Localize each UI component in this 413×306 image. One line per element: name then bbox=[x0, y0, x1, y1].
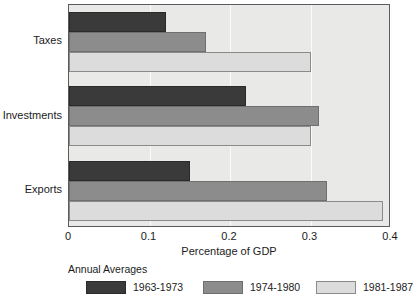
legend-swatch bbox=[203, 281, 243, 294]
legend-label: 1963-1973 bbox=[133, 281, 183, 293]
x-tick-label: 0.4 bbox=[370, 230, 410, 242]
x-tick-label: 0 bbox=[48, 230, 88, 242]
category-label-investments: Investments bbox=[0, 109, 62, 121]
bar-group bbox=[69, 154, 389, 228]
x-tick-label: 0.2 bbox=[209, 230, 249, 242]
x-tick-label: 0.3 bbox=[290, 230, 330, 242]
bar bbox=[69, 161, 190, 181]
legend-label: 1974-1980 bbox=[250, 281, 300, 293]
bar-group bbox=[69, 5, 389, 79]
bar bbox=[69, 52, 311, 72]
category-label-taxes: Taxes bbox=[0, 34, 62, 46]
legend-label: 1981-1987 bbox=[363, 281, 413, 293]
legend-item: 1974-1980 bbox=[203, 279, 300, 295]
x-axis-title: Percentage of GDP bbox=[68, 245, 390, 257]
legend-items: 1963-19731974-19801981-1987 bbox=[68, 279, 398, 295]
legend: Annual Averages 1963-19731974-19801981-1… bbox=[68, 263, 398, 295]
bar bbox=[69, 106, 319, 126]
legend-swatch bbox=[316, 281, 356, 294]
x-tick-label: 0.1 bbox=[129, 230, 169, 242]
gridline bbox=[391, 5, 392, 226]
bar-group bbox=[69, 79, 389, 153]
bar bbox=[69, 201, 383, 221]
category-label-exports: Exports bbox=[0, 183, 62, 195]
bar bbox=[69, 32, 206, 52]
plot-area bbox=[68, 4, 390, 227]
legend-title: Annual Averages bbox=[68, 263, 398, 275]
bar bbox=[69, 86, 246, 106]
legend-swatch bbox=[86, 281, 126, 294]
bar bbox=[69, 12, 166, 32]
legend-item: 1963-1973 bbox=[86, 279, 183, 295]
bar bbox=[69, 126, 311, 146]
bar bbox=[69, 181, 327, 201]
legend-item: 1981-1987 bbox=[316, 279, 413, 295]
